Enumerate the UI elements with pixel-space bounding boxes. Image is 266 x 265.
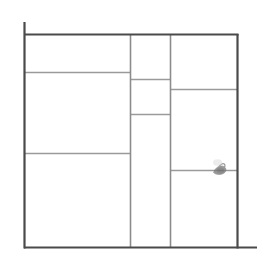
layout-partition-drawing: [0, 0, 266, 265]
vertical-dividers-group: [131, 34, 171, 248]
smudge-halo: [213, 159, 222, 165]
wireframe-canvas: [0, 0, 266, 265]
outer-frame-group: [24, 22, 257, 249]
pencil-smudge-mark: [213, 159, 226, 174]
smudge-core: [217, 168, 224, 174]
